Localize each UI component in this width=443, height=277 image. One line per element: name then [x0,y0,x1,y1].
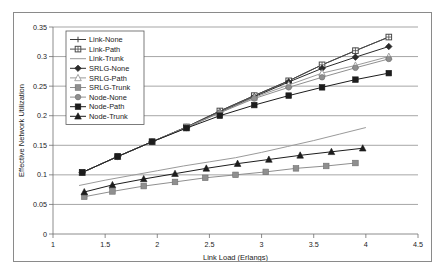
legend-label: SRLG-None [89,64,129,73]
legend-label: Link-Trunk [89,54,124,63]
data-point-marker [386,56,392,62]
chart-frame: 00.050.10.150.20.250.30.3511.522.533.544… [13,12,432,262]
data-point-marker [353,65,359,71]
data-point-marker [75,85,81,91]
x-axis-title: Link Load (Erlangs) [203,253,269,261]
y-tick-label: 0.25 [33,82,47,91]
data-point-marker [217,113,223,119]
legend-label: Link-Path [89,45,120,54]
data-point-marker [149,139,155,145]
x-tick-label: 4.5 [413,240,423,249]
x-tick-label: 1 [51,240,55,249]
y-tick-label: 0.05 [33,200,47,209]
data-point-marker [323,163,329,169]
legend-label: Node-None [89,93,127,102]
data-point-marker [184,125,190,131]
series-line [79,128,366,186]
data-point-marker [263,169,269,175]
y-tick-label: 0.1 [37,170,47,179]
x-tick-label: 1.5 [100,240,110,249]
y-tick-label: 0.35 [33,23,47,32]
legend-label: Node-Path [89,102,124,111]
data-point-marker [79,170,85,176]
data-point-marker [141,183,147,189]
data-point-marker [286,93,292,99]
data-point-marker [75,104,81,110]
legend-label: Node-Trunk [89,112,128,121]
line-chart: 00.050.10.150.20.250.30.3511.522.533.544… [14,13,431,261]
data-point-marker [353,48,359,54]
x-tick-label: 2.5 [204,240,214,249]
data-point-marker [115,154,121,160]
data-point-marker [251,96,257,102]
data-point-marker [293,166,299,172]
legend-label: Link-None [89,35,123,44]
data-point-marker [75,94,81,100]
y-tick-label: 0 [43,230,47,239]
x-tick-label: 3.5 [309,240,319,249]
data-point-marker [353,77,359,83]
data-point-marker [386,70,392,76]
data-point-marker [75,46,81,52]
y-tick-label: 0.15 [33,141,47,150]
legend-label: SRLG-Trunk [89,83,131,92]
data-point-marker [172,179,178,185]
data-point-marker [386,43,393,50]
data-point-marker [319,85,325,91]
y-axis-title: Effective Network Utilization [17,84,26,177]
y-tick-label: 0.3 [37,52,47,61]
data-point-marker [233,172,239,178]
data-point-marker [110,189,116,195]
data-point-marker [202,175,208,181]
x-tick-label: 2 [155,240,159,249]
legend-label: SRLG-Path [89,74,127,83]
x-tick-label: 3 [260,240,264,249]
legend-item[interactable]: Link-Path [70,45,120,54]
data-point-marker [359,145,366,151]
x-tick-label: 4 [364,240,368,249]
data-point-marker [286,85,292,91]
data-point-marker [352,54,359,61]
data-point-marker [251,102,257,108]
series-line [84,163,355,197]
y-tick-label: 0.2 [37,111,47,120]
data-point-marker [353,160,359,166]
data-point-marker [319,74,325,80]
series-line [84,148,362,192]
data-point-marker [386,34,392,40]
